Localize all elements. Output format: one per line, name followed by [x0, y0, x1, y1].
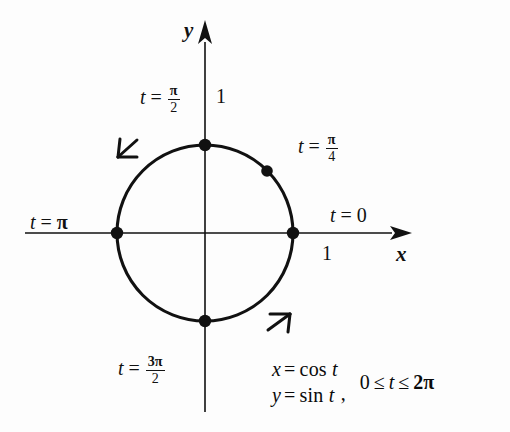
- equation-x-function: cos: [299, 358, 327, 380]
- domain-lower-bound: 0: [360, 371, 370, 393]
- fraction-pi-over-4: π 4: [326, 133, 338, 165]
- label-t-equals-0-var: t: [330, 204, 336, 226]
- label-t-equals-pi-over-4-operator: =: [304, 135, 325, 157]
- y-axis-tick-label-1: 1: [216, 86, 226, 106]
- x-axis-arrowhead: [390, 226, 412, 240]
- direction-arrow-upper-left: [118, 139, 137, 157]
- label-t-equals-0: t=0: [330, 205, 367, 225]
- equation-x-argument: t: [332, 358, 338, 380]
- point-t-pi-over-2: [199, 139, 211, 151]
- label-t-equals-3pi-over-2: t= 3π 2: [118, 355, 166, 387]
- label-t-equals-pi-over-2: t= π 2: [140, 84, 181, 116]
- x-axis-label: x: [396, 244, 407, 265]
- label-t-equals-pi: t=π: [30, 212, 68, 232]
- fraction-pi-over-2-denominator: 2: [168, 100, 180, 115]
- fraction-3pi-over-2-denominator: 2: [146, 371, 165, 386]
- equation-x-lhs: x: [272, 358, 281, 380]
- point-t-0: [287, 227, 299, 239]
- fraction-pi-over-4-numerator: π: [326, 133, 338, 149]
- parametric-circle-figure: y x 1 1 t=0 t= π 4 t= π 2 t=π t= 3π 2 x=…: [0, 0, 510, 432]
- label-t-equals-pi-over-4-var: t: [298, 135, 304, 157]
- domain-operator-upper: ≤: [394, 371, 413, 393]
- label-t-equals-pi-over-4: t= π 4: [298, 133, 339, 165]
- label-t-equals-3pi-over-2-var: t: [118, 357, 124, 379]
- label-t-equals-pi-value: π: [57, 211, 68, 233]
- domain-range: 0≤t≤2π: [346, 371, 435, 394]
- point-t-3pi-over-2: [199, 315, 211, 327]
- label-t-equals-3pi-over-2-operator: =: [124, 357, 145, 379]
- equation-y-argument: t: [329, 384, 335, 406]
- domain-operator-lower: ≤: [370, 371, 389, 393]
- y-axis-label: y: [184, 20, 193, 41]
- fraction-pi-over-2: π 2: [168, 84, 180, 116]
- equation-y-function: sin: [299, 384, 324, 406]
- equation-x: x=cos t: [272, 358, 338, 381]
- fraction-3pi-over-2-numerator: 3π: [146, 355, 165, 371]
- domain-upper-bound: 2π: [413, 371, 434, 393]
- label-t-equals-pi-var: t: [30, 211, 36, 233]
- equation-y: y=sin t: [272, 384, 338, 407]
- fraction-pi-over-4-denominator: 4: [326, 149, 338, 164]
- equation-x-operator: =: [281, 358, 298, 380]
- fraction-3pi-over-2: 3π 2: [146, 355, 165, 387]
- equations-comma: ,: [338, 382, 346, 407]
- point-t-pi: [111, 227, 123, 239]
- parametric-equations-system: x=cos t y=sin t: [272, 358, 338, 407]
- equation-y-operator: =: [281, 384, 298, 406]
- y-axis-arrowhead: [198, 20, 212, 44]
- parametric-equations-block: x=cos t y=sin t , 0≤t≤2π: [272, 358, 434, 407]
- fraction-pi-over-2-numerator: π: [168, 84, 180, 100]
- label-t-equals-pi-over-2-var: t: [140, 86, 146, 108]
- direction-arrow-lower-right: [268, 314, 290, 332]
- label-t-equals-pi-over-2-operator: =: [146, 86, 167, 108]
- label-t-equals-0-value: 0: [357, 204, 367, 226]
- label-t-equals-pi-operator: =: [36, 211, 57, 233]
- x-axis-tick-label-1: 1: [322, 243, 332, 263]
- point-t-pi-over-4: [261, 165, 273, 177]
- label-t-equals-0-operator: =: [336, 204, 357, 226]
- equation-y-lhs: y: [272, 384, 281, 406]
